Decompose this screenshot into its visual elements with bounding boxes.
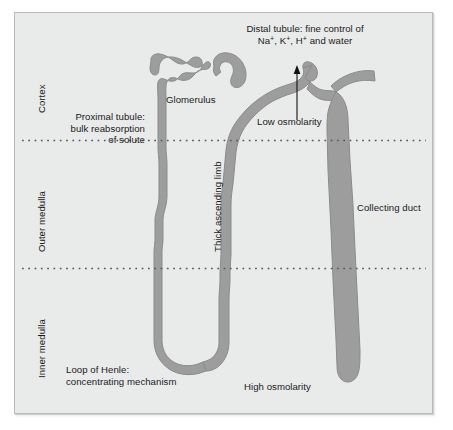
loop-of-henle-annotation-line2: concentrating mechanism — [66, 376, 176, 388]
proximal-tubule-annotation-line1: Proximal tubule: — [30, 111, 145, 123]
high-osmolarity-label: High osmolarity — [244, 381, 311, 393]
zone-label-inner-medulla: Inner medulla — [36, 319, 47, 378]
distal-tubule-annotation-line1: Distal tubule: fine control of — [215, 23, 395, 35]
nephron-diagram-figure: Cortex Outer medulla Inner medulla Dista… — [0, 0, 453, 430]
distal-tubule-na: Na — [258, 35, 270, 46]
proximal-tubule-annotation-line2: bulk reabsorption — [30, 123, 145, 135]
distal-tubule-water: and water — [307, 35, 352, 46]
collecting-duct-label: Collecting duct — [357, 202, 421, 214]
distal-tubule-k: , K — [274, 35, 286, 46]
loop-of-henle-annotation-line1: Loop of Henle: — [66, 364, 176, 376]
proximal-tubule-annotation-line3: of solute — [30, 134, 145, 146]
distal-tubule-annotation: Distal tubule: fine control of Na+, K+, … — [215, 23, 395, 46]
glomerulus-label: Glomerulus — [166, 94, 216, 106]
thick-ascending-limb-label: Thick ascending limb — [212, 161, 223, 252]
collecting-duct-upper-branch — [331, 71, 375, 92]
collecting-duct — [327, 92, 360, 382]
zone-label-cortex: Cortex — [36, 84, 47, 113]
distal-tubule-h: , H — [290, 35, 302, 46]
proximal-tubule-annotation: Proximal tubule: bulk reabsorption of so… — [30, 111, 145, 146]
glomerulus-shape — [213, 53, 246, 88]
loop-of-henle-annotation: Loop of Henle: concentrating mechanism — [66, 364, 176, 387]
low-osmolarity-arrowhead — [294, 65, 301, 74]
low-osmolarity-label: Low osmolarity — [257, 116, 322, 128]
zone-label-outer-medulla: Outer medulla — [36, 191, 47, 252]
distal-tubule-annotation-line2: Na+, K+, H+ and water — [215, 35, 395, 47]
